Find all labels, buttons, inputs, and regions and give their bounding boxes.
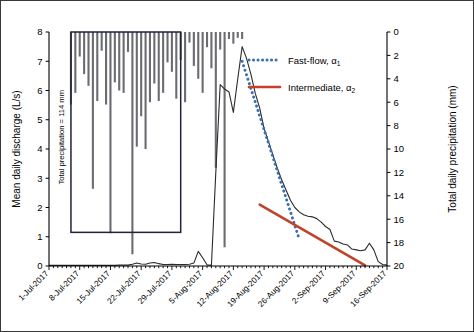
y-axis-tick-label: 3 xyxy=(37,173,42,184)
y2-axis-tick-label: 10 xyxy=(394,143,405,154)
x-axis-date-label: 1-Jul-2017 xyxy=(17,269,51,303)
y-axis-tick-label: 7 xyxy=(37,56,42,67)
y2-axis-tick-label: 8 xyxy=(394,120,399,131)
total-precipitation-box xyxy=(71,32,181,232)
y-axis-tick-label: 5 xyxy=(37,114,42,125)
y-axis-tick-label: 6 xyxy=(37,85,42,96)
y2-axis-tick-label: 4 xyxy=(394,73,399,84)
discharge-precipitation-chart: Total precipitation = 114 mm012345678024… xyxy=(1,1,474,332)
y2-axis-tick-label: 14 xyxy=(394,190,405,201)
y-axis-tick-label: 1 xyxy=(37,231,42,242)
intermediate-trendline xyxy=(260,205,365,266)
y-axis-tick-label: 2 xyxy=(37,202,42,213)
y2-axis-tick-label: 12 xyxy=(394,167,405,178)
y2-axis-title: Total daily precipitation (mm) xyxy=(447,85,458,212)
y-axis-tick-label: 0 xyxy=(37,260,42,271)
y-axis-tick-label: 4 xyxy=(37,143,42,154)
y2-axis-tick-label: 6 xyxy=(394,97,399,108)
legend-label-intermediate: Intermediate, α2 xyxy=(288,82,356,94)
y2-axis-tick-label: 16 xyxy=(394,214,405,225)
total-precipitation-label: Total precipitation = 114 mm xyxy=(57,90,66,185)
legend-label-fast-flow: Fast-flow, α1 xyxy=(288,55,341,67)
y2-axis-tick-label: 20 xyxy=(394,260,405,271)
figure-container: Total precipitation = 114 mm012345678024… xyxy=(0,0,474,332)
y-axis-title: Mean daily discharge (L/s) xyxy=(11,90,22,207)
y2-axis-tick-label: 0 xyxy=(394,26,399,37)
y2-axis-tick-label: 2 xyxy=(394,50,399,61)
y2-axis-tick-label: 18 xyxy=(394,237,405,248)
y-axis-tick-label: 8 xyxy=(37,26,42,37)
